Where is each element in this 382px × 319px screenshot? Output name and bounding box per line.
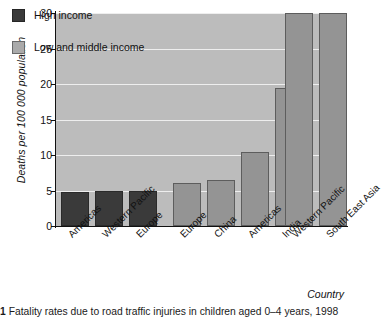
x-axis-tick-labels: AmericasWestern PacificEuropeEuropeChina… (0, 228, 352, 288)
y-tick-mark (51, 155, 56, 156)
figure-caption: 1Fatality rates due to road traffic inju… (0, 306, 352, 318)
y-tick-label: 5 (28, 186, 52, 196)
y-tick-mark (51, 13, 56, 14)
y-tick-mark (51, 191, 56, 192)
low-middle-income-swatch (12, 41, 25, 54)
legend-label: High income (34, 9, 92, 21)
legend-label: Low and middle income (34, 41, 144, 53)
legend: High incomeLow and middle income (12, 8, 144, 72)
y-tick-mark (51, 120, 56, 121)
y-tick-mark (51, 84, 56, 85)
y-tick-mark (51, 49, 56, 50)
x-axis-title: Country (307, 288, 344, 300)
legend-item: Low and middle income (12, 40, 144, 54)
y-tick-label: 15 (28, 115, 52, 125)
figure-caption-text: Fatality rates due to road traffic injur… (9, 306, 339, 317)
y-tick-label: 20 (28, 79, 52, 89)
y-tick-mark (51, 226, 56, 227)
high-income-swatch (12, 9, 25, 22)
bar (285, 13, 313, 226)
y-tick-label: 10 (28, 150, 52, 160)
legend-item: High income (12, 8, 144, 22)
figure-number: 1 (0, 306, 6, 317)
